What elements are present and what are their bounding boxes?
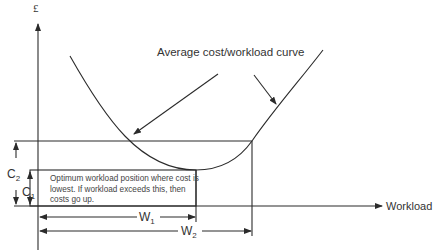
- cost-workload-diagram: £ Average cost/workload curve Workload O…: [0, 0, 446, 250]
- average-cost-curve: [70, 50, 323, 170]
- optimum-note: Optimum workload position where cost is …: [50, 174, 200, 206]
- diagram-lines: [0, 0, 446, 250]
- w2-label: W2: [180, 224, 198, 238]
- w1-label: W1: [138, 210, 156, 224]
- label-pointer-left: [134, 74, 218, 134]
- label-pointer-right: [254, 75, 276, 104]
- c1-label: C1: [22, 185, 35, 199]
- curve-label: Average cost/workload curve: [157, 46, 304, 58]
- y-axis-label: £: [33, 2, 39, 14]
- x-axis-label: Workload: [386, 200, 432, 212]
- c2-label: C2: [7, 167, 20, 181]
